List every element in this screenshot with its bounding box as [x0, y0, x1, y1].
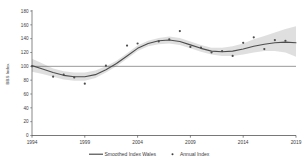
- data-point: [168, 38, 170, 40]
- data-point: [274, 39, 276, 41]
- data-point: [200, 47, 202, 49]
- y-tick-label: 40: [23, 106, 29, 111]
- data-point: [126, 44, 128, 46]
- y-tick-label: 180: [21, 9, 29, 14]
- y-tick-label: 60: [23, 92, 29, 97]
- y-tick-label: 160: [21, 23, 29, 28]
- data-point: [242, 42, 244, 44]
- data-point: [253, 36, 255, 38]
- x-tick-label: 1999: [79, 140, 90, 145]
- legend-label-smoothed: Smoothed Index Wales: [105, 151, 157, 157]
- data-point: [84, 83, 86, 85]
- data-point: [73, 76, 75, 78]
- data-point: [263, 48, 265, 50]
- x-tick-label: 2019: [291, 140, 302, 145]
- data-point: [284, 40, 286, 42]
- data-point: [179, 30, 181, 32]
- x-tick-label: 2009: [185, 140, 196, 145]
- y-tick-label: 100: [21, 64, 29, 69]
- legend-label-annual: Annual Index: [180, 151, 210, 157]
- y-tick-label: 140: [21, 36, 29, 41]
- data-point: [221, 50, 223, 52]
- data-point: [52, 76, 54, 78]
- data-point: [105, 65, 107, 67]
- y-tick-label: 20: [23, 119, 29, 124]
- chart-legend: Smoothed Index Wales Annual Index: [89, 151, 210, 157]
- chart-container: 020406080100120140160180 199419992004200…: [0, 0, 308, 162]
- y-tick-label: 0: [26, 133, 29, 138]
- y-tick-label: 80: [23, 78, 29, 83]
- x-tick-label: 2004: [132, 140, 143, 145]
- data-point: [189, 46, 191, 48]
- chart-background: [0, 0, 308, 162]
- y-axis-title: BBS Index: [5, 63, 10, 85]
- legend-dot-swatch: [172, 153, 174, 155]
- y-tick-label: 120: [21, 50, 29, 55]
- bbs-index-chart: 020406080100120140160180 199419992004200…: [0, 0, 308, 162]
- data-point: [210, 51, 212, 53]
- x-tick-label: 2014: [238, 140, 249, 145]
- data-point: [137, 42, 139, 44]
- data-point: [63, 74, 65, 76]
- data-point: [232, 55, 234, 57]
- data-point: [158, 40, 160, 42]
- x-tick-label: 1994: [27, 140, 38, 145]
